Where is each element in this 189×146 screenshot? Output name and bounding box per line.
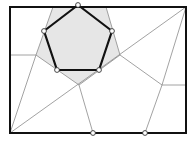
vertex-marker xyxy=(110,29,115,34)
partition-edge xyxy=(10,55,36,133)
partition-edge xyxy=(162,7,186,85)
vertex-marker xyxy=(42,29,47,34)
vertex-marker xyxy=(143,131,148,136)
partition-diagram xyxy=(0,0,189,146)
partition-edge xyxy=(120,55,162,85)
vertex-marker xyxy=(97,68,102,73)
vertex-marker xyxy=(55,68,60,73)
vertex-marker xyxy=(76,3,81,8)
partition-edge xyxy=(79,85,93,133)
partition-edge xyxy=(145,85,162,133)
vertex-marker xyxy=(91,131,96,136)
